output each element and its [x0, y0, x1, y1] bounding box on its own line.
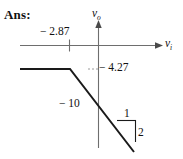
answer-prefix-label: Ans:	[4, 8, 31, 21]
answer-figure: Ans: − 2.87 − 4.27 − 10 1 2 vo vi	[0, 0, 183, 159]
slope-rise-label: 1	[124, 108, 130, 120]
y-axis	[95, 20, 101, 148]
x-breakpoint-label: − 2.87	[40, 26, 70, 38]
y-axis-label: vo	[92, 8, 101, 22]
transfer-curve-path	[20, 69, 134, 152]
slope-run-label: 2	[138, 127, 144, 139]
y-axis-label-subscript: o	[97, 13, 101, 22]
slope-triangle	[117, 120, 136, 142]
x-axis-label: vi	[165, 38, 172, 52]
x-axis-label-subscript: i	[170, 43, 172, 52]
transfer-curve	[20, 69, 134, 152]
y-breakpoint-label: − 4.27	[99, 62, 129, 74]
x-axis	[20, 42, 163, 48]
y-reference-label: − 10	[59, 98, 80, 110]
transfer-characteristic-plot	[0, 0, 183, 159]
x-axis-arrowhead	[155, 42, 163, 48]
